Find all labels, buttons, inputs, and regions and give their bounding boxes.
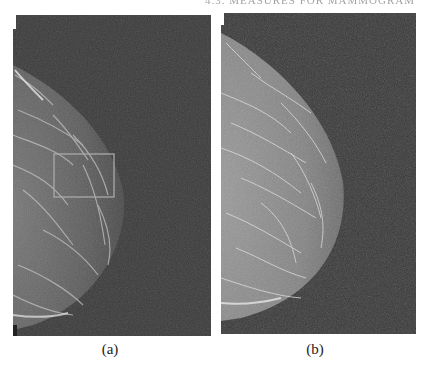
caption-b: (b) [295,341,335,358]
mammogram-enhanced-image [221,13,416,334]
mammogram-panel-a [13,15,211,336]
caption-a: (a) [90,341,130,358]
mammogram-panel-b [221,13,416,334]
mammogram-original-image [13,15,211,336]
running-header: 4.3. MEASURES FOR MAMMOGRAM [205,0,428,4]
